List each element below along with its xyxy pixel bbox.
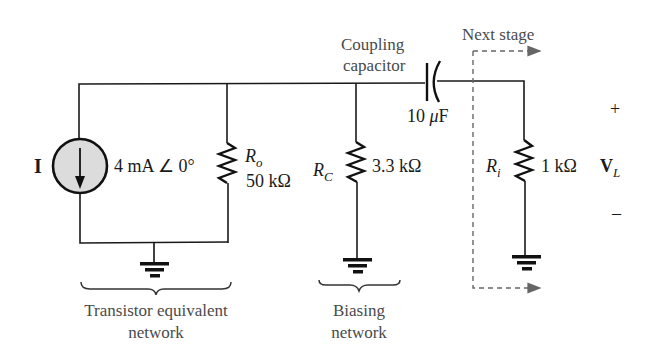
brace-biasing-icon: [319, 280, 400, 291]
resistor-rc-icon: [348, 142, 364, 182]
ro-value: 50 kΩ: [246, 171, 291, 191]
output-minus: –: [611, 203, 622, 223]
rc-label: RC: [312, 160, 333, 184]
ri-label: Ri: [485, 156, 501, 180]
current-source: [53, 139, 107, 193]
ground-icon: [343, 258, 372, 274]
capacitor-label-line1: Coupling: [341, 35, 405, 54]
transistor-group-line2: network: [128, 323, 184, 342]
brace-transistor-icon: [81, 282, 231, 295]
rc-value: 3.3 kΩ: [372, 156, 421, 176]
resistor-ri-icon: [516, 140, 532, 181]
top-wire-left: [79, 83, 425, 143]
source-symbol: I: [34, 155, 42, 177]
biasing-group-line1: Biasing: [333, 301, 385, 320]
next-stage-label: Next stage: [462, 25, 534, 44]
transistor-group-line1: Transistor equivalent: [84, 301, 228, 320]
ground-icon: [140, 242, 169, 278]
resistor-ro-icon: [219, 143, 235, 183]
top-wire-right: [437, 81, 524, 140]
circuit-diagram: I 4 mA ∠ 0° Ro 50 kΩ RC 3.3 kΩ Ri 1 kΩ C…: [0, 0, 654, 361]
source-value: 4 mA ∠ 0°: [114, 156, 195, 176]
source-bottom-wire: [80, 193, 228, 243]
ro-label: Ro: [244, 146, 263, 170]
biasing-group-line2: network: [331, 323, 387, 342]
capacitor-label-line2: capacitor: [343, 56, 406, 75]
ri-value: 1 kΩ: [541, 156, 577, 176]
capacitor-value: 10 μF: [407, 106, 449, 126]
output-plus: +: [610, 99, 620, 119]
ground-icon: [512, 255, 541, 271]
output-voltage-label: VL: [600, 156, 620, 180]
